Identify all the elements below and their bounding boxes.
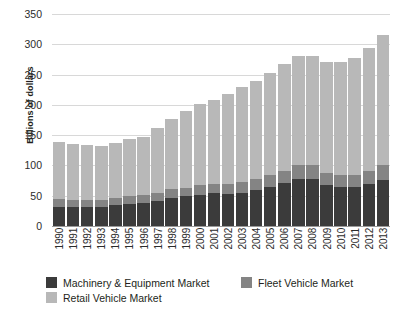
bar-segment — [53, 142, 65, 199]
y-tick-200: 200 — [24, 99, 42, 111]
y-tick-250: 250 — [24, 69, 42, 81]
x-tick-2007: 2007 — [292, 228, 304, 272]
x-tick-label: 2013 — [377, 228, 388, 249]
bar-segment — [208, 100, 220, 184]
gridline-0 — [52, 226, 390, 227]
bar-segment — [67, 144, 79, 200]
bar-segment — [53, 207, 65, 226]
bar-2012 — [363, 14, 375, 226]
bar-segment — [292, 179, 304, 226]
legend-row-1: Machinery & Equipment Market Fleet Vehic… — [46, 275, 386, 290]
x-tick-label: 1992 — [82, 228, 93, 249]
stacked-bar-chart: Billions of dollars 05010015020025030035… — [0, 0, 398, 311]
bar-segment — [109, 143, 121, 198]
legend-row-2: Retail Vehicle Market — [46, 290, 386, 305]
x-tick-2003: 2003 — [236, 228, 248, 272]
bar-segment — [377, 35, 389, 165]
bar-2000 — [194, 14, 206, 226]
bar-segment — [81, 207, 93, 226]
bar-segment — [123, 139, 135, 195]
bar-segment — [320, 62, 332, 172]
bar-segment — [306, 56, 318, 166]
bar-segment — [194, 195, 206, 226]
bar-2006 — [278, 14, 290, 226]
x-tick-label: 2009 — [321, 228, 332, 249]
x-tick-label: 2005 — [265, 228, 276, 249]
bar-segment — [81, 200, 93, 207]
x-tick-2008: 2008 — [306, 228, 318, 272]
x-tick-label: 2012 — [363, 228, 374, 249]
bar-segment — [95, 146, 107, 200]
bar-segment — [151, 201, 163, 226]
x-tick-2004: 2004 — [250, 228, 262, 272]
bar-segment — [348, 187, 360, 226]
bar-segment — [109, 198, 121, 205]
bar-segment — [250, 190, 262, 226]
bar-segment — [67, 207, 79, 226]
legend-swatch-retail-icon — [46, 292, 57, 303]
bar-segment — [377, 165, 389, 180]
x-tick-label: 1995 — [124, 228, 135, 249]
bar-segment — [236, 193, 248, 226]
bar-1998 — [165, 14, 177, 226]
bar-segment — [123, 204, 135, 226]
bar-segment — [264, 73, 276, 175]
bar-1999 — [180, 14, 192, 226]
chart-legend: Machinery & Equipment Market Fleet Vehic… — [46, 275, 386, 305]
x-tick-2000: 2000 — [194, 228, 206, 272]
bar-segment — [264, 187, 276, 226]
bar-segment — [208, 193, 220, 226]
bar-segment — [180, 188, 192, 196]
bar-segment — [320, 173, 332, 185]
legend-item-machinery: Machinery & Equipment Market — [46, 277, 241, 289]
x-tick-2011: 2011 — [348, 228, 360, 272]
x-tick-label: 1991 — [68, 228, 79, 249]
bar-segment — [180, 111, 192, 188]
bar-segment — [151, 128, 163, 193]
x-tick-1993: 1993 — [95, 228, 107, 272]
x-tick-1990: 1990 — [53, 228, 65, 272]
bar-segment — [165, 189, 177, 197]
bar-segment — [208, 184, 220, 194]
y-tick-150: 150 — [24, 129, 42, 141]
legend-swatch-machinery-icon — [46, 277, 57, 288]
x-tick-label: 2011 — [349, 228, 360, 249]
bar-segment — [95, 200, 107, 207]
x-tick-label: 1997 — [152, 228, 163, 249]
x-tick-1992: 1992 — [81, 228, 93, 272]
bar-2013 — [377, 14, 389, 226]
x-tick-label: 2002 — [222, 228, 233, 249]
legend-label-retail: Retail Vehicle Market — [63, 292, 162, 304]
bar-segment — [377, 180, 389, 226]
bar-segment — [236, 182, 248, 192]
bar-segment — [53, 199, 65, 207]
bar-segment — [250, 179, 262, 191]
bar-segment — [123, 196, 135, 204]
bar-segment — [363, 171, 375, 184]
bar-segment — [222, 94, 234, 184]
bar-segment — [109, 205, 121, 226]
bar-2007 — [292, 14, 304, 226]
bar-segment — [67, 200, 79, 207]
bar-segment — [137, 203, 149, 226]
x-tick-1994: 1994 — [109, 228, 121, 272]
bar-segment — [165, 119, 177, 189]
x-tick-2009: 2009 — [320, 228, 332, 272]
x-axis-tick-labels: 1990199119921993199419951996199719981999… — [52, 228, 390, 272]
bar-2003 — [236, 14, 248, 226]
bar-segment — [194, 104, 206, 185]
x-tick-1991: 1991 — [67, 228, 79, 272]
legend-item-retail: Retail Vehicle Market — [46, 292, 241, 304]
bar-segment — [236, 87, 248, 183]
bar-segment — [222, 184, 234, 194]
legend-swatch-fleet-icon — [241, 277, 252, 288]
bar-1993 — [95, 14, 107, 226]
bar-1996 — [137, 14, 149, 226]
x-tick-label: 2007 — [293, 228, 304, 249]
plot-area — [52, 14, 390, 226]
bar-1991 — [67, 14, 79, 226]
bar-1997 — [151, 14, 163, 226]
bar-segment — [348, 58, 360, 175]
bar-segment — [137, 195, 149, 203]
y-tick-0: 0 — [36, 220, 42, 232]
